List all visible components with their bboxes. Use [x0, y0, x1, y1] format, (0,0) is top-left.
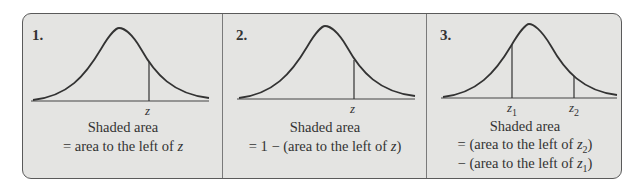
- z2-marker-label: z2: [569, 100, 579, 118]
- z1-marker-label: z1: [507, 100, 517, 118]
- panel-2: 2. z Shaded area = 1 − (area to the left…: [223, 14, 427, 178]
- panel-1: 1. z Shaded area = area to the left of z: [23, 14, 223, 178]
- caption-line-1: Shaded area: [23, 118, 223, 137]
- figure-frame: 1. z Shaded area = area to the left of z…: [22, 13, 622, 179]
- caption-line-2: = 1 − (area to the left of z): [223, 137, 427, 156]
- z-marker-label: z: [145, 103, 150, 119]
- caption-line-1: Shaded area: [427, 117, 622, 136]
- z-marker-label: z: [350, 101, 355, 117]
- panel-3: 3. z1 z2 Shaded area = (area to the left…: [427, 14, 622, 178]
- caption-line-1: Shaded area: [223, 118, 427, 137]
- normal-curve-between: [427, 14, 622, 114]
- normal-curve-right-tail: [223, 14, 427, 114]
- normal-curve-left-tail: [23, 14, 223, 114]
- caption-line-3: − (area to the left of z1): [427, 154, 622, 178]
- caption-line-2: = area to the left of z: [23, 137, 223, 156]
